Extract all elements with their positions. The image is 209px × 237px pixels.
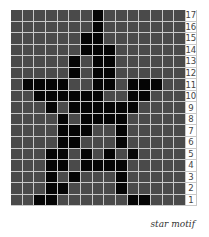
chart-cell (116, 102, 128, 114)
chart-cell (11, 102, 23, 114)
chart-cell (69, 10, 81, 22)
chart-cell (104, 91, 116, 103)
chart-cell (46, 68, 58, 80)
chart-cell (128, 45, 140, 57)
chart-cell (58, 68, 70, 80)
chart-cell (139, 149, 151, 161)
chart-cell (34, 183, 46, 195)
chart-cell (116, 172, 128, 184)
chart-cell (151, 68, 163, 80)
chart-cell (69, 22, 81, 34)
chart-cell (139, 10, 151, 22)
chart-cell (11, 172, 23, 184)
chart-cell (139, 114, 151, 126)
chart-cell (81, 10, 93, 22)
chart-cell (174, 160, 186, 172)
chart-cell (163, 195, 175, 207)
row-number-label: 5 (186, 149, 197, 161)
row-number-label: 4 (186, 160, 197, 172)
chart-cell (69, 91, 81, 103)
chart-cell (163, 183, 175, 195)
chart-cell (128, 114, 140, 126)
chart-cell (58, 79, 70, 91)
row-number-label: 6 (186, 137, 197, 149)
chart-cell (139, 45, 151, 57)
chart-cell (151, 102, 163, 114)
chart-cell (93, 91, 105, 103)
chart-cell (174, 183, 186, 195)
chart-cell (58, 33, 70, 45)
chart-cell (11, 160, 23, 172)
chart-cell (174, 22, 186, 34)
chart-caption: star motif (150, 219, 195, 229)
chart-cell (104, 125, 116, 137)
chart-cell (81, 125, 93, 137)
chart-cell (151, 149, 163, 161)
chart-cell (174, 102, 186, 114)
chart-cell (163, 91, 175, 103)
chart-cell (174, 10, 186, 22)
chart-cell (116, 195, 128, 207)
chart-cell (81, 33, 93, 45)
chart-cell (34, 56, 46, 68)
chart-cell (11, 183, 23, 195)
chart-cell (174, 91, 186, 103)
chart-cell (23, 33, 35, 45)
chart-cell (93, 149, 105, 161)
chart-cell (11, 91, 23, 103)
chart-cell (116, 114, 128, 126)
chart-cell (69, 137, 81, 149)
chart-cell (174, 137, 186, 149)
chart-cell (151, 22, 163, 34)
chart-cell (23, 56, 35, 68)
chart-cell (104, 160, 116, 172)
chart-cell (163, 102, 175, 114)
chart-cell (174, 79, 186, 91)
chart-cell (11, 79, 23, 91)
chart-cell (174, 45, 186, 57)
chart-cell (69, 68, 81, 80)
chart-cell (11, 22, 23, 34)
row-number-label: 11 (186, 79, 197, 91)
chart-cell (11, 125, 23, 137)
chart-cell (163, 10, 175, 22)
chart-cell (58, 160, 70, 172)
chart-cell (58, 172, 70, 184)
chart-cell (34, 137, 46, 149)
chart-cell (11, 33, 23, 45)
chart-cell (139, 56, 151, 68)
chart-cell (46, 79, 58, 91)
chart-cell (116, 79, 128, 91)
chart-cell (46, 125, 58, 137)
chart-cell (34, 160, 46, 172)
chart-cell (93, 68, 105, 80)
chart-cell (81, 149, 93, 161)
chart-cell (23, 137, 35, 149)
chart-cell (34, 102, 46, 114)
chart-cell (34, 172, 46, 184)
chart-cell (116, 33, 128, 45)
chart-cell (34, 33, 46, 45)
row-number-label: 2 (186, 183, 197, 195)
chart-cell (104, 114, 116, 126)
chart-cell (128, 10, 140, 22)
chart-cell (11, 10, 23, 22)
chart-cell (151, 195, 163, 207)
chart-cell (69, 79, 81, 91)
chart-cell (46, 45, 58, 57)
chart-cell (23, 102, 35, 114)
chart-cell (46, 102, 58, 114)
chart-cell (163, 68, 175, 80)
chart-cell (163, 125, 175, 137)
chart-cell (151, 125, 163, 137)
chart-cell (46, 183, 58, 195)
chart-cell (151, 79, 163, 91)
chart-cell (81, 195, 93, 207)
chart-cell (34, 149, 46, 161)
chart-cell (58, 22, 70, 34)
chart-cell (128, 22, 140, 34)
row-number-label: 1 (186, 195, 197, 207)
chart-cell (128, 195, 140, 207)
chart-cell (23, 172, 35, 184)
chart-cell (69, 160, 81, 172)
